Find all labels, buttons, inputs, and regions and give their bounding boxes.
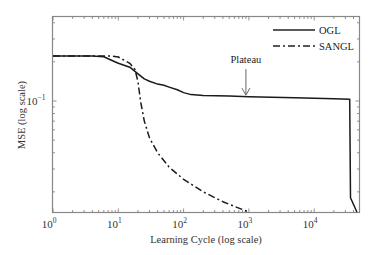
x-tick-label: 100 <box>42 216 57 230</box>
x-tick-label: 101 <box>107 216 122 230</box>
legend-label-sangl: SANGL <box>319 41 354 52</box>
x-axis-ticks: 100101102103104 <box>42 17 354 231</box>
x-tick-label: 102 <box>172 216 187 230</box>
annotation-plateau-label: Plateau <box>230 54 262 65</box>
x-axis-label: Learning Cycle (log scale) <box>150 234 262 246</box>
mse-learning-cycle-chart: 100101102103104 10−1 Plateau OGL SANGL L… <box>0 0 378 255</box>
legend-label-ogl: OGL <box>319 25 341 36</box>
annotations: Plateau <box>230 54 262 95</box>
plot-area: 100101102103104 10−1 Plateau <box>27 17 360 231</box>
series-lines <box>53 56 357 212</box>
x-tick-label: 104 <box>303 216 318 230</box>
y-axis-ticks: 10−1 <box>27 23 360 192</box>
legend: OGL SANGL <box>273 25 354 52</box>
y-tick-label: 10−1 <box>27 93 46 107</box>
series-line-sangl <box>53 56 249 212</box>
y-axis-label: MSE (log scale) <box>16 80 28 149</box>
series-line-ogl <box>53 56 357 212</box>
x-tick-label: 103 <box>238 216 253 230</box>
